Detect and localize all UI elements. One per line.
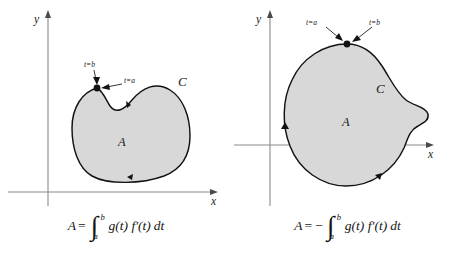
panel-left: t=b t=a C A y x A= b ∫ a g(t) f′(t)dt (0, 0, 232, 253)
left-formula-differential: dt (154, 218, 165, 233)
left-integral-upper-limit: b (101, 212, 105, 222)
right-diagram: t=a t=b C A y x (232, 0, 463, 210)
panel-right: t=a t=b C A y x A=− b ∫ a g(t) f′(t)dt (232, 0, 463, 253)
left-x-axis (8, 189, 218, 195)
left-label-axis-y: y (33, 13, 40, 26)
left-label-curve-c: C (178, 74, 187, 89)
figure-container: t=b t=a C A y x A= b ∫ a g(t) f′(t)dt (0, 0, 463, 253)
right-integral-upper-limit: b (337, 212, 341, 222)
left-closed-curve (72, 86, 190, 182)
left-integral-lower-limit: a (94, 231, 98, 241)
left-label-t-b: t=b (84, 60, 95, 69)
right-formula: A=− b ∫ a g(t) f′(t)dt (232, 214, 463, 240)
right-formula-differential: dt (390, 218, 401, 233)
left-label-axis-x: x (210, 195, 217, 207)
right-formula-lhs: A (294, 218, 302, 233)
right-formula-integrand: g(t) f′(t) (345, 218, 387, 233)
right-leader-tb (352, 27, 372, 42)
right-label-region-a: A (341, 115, 350, 129)
left-label-t-a: t=a (124, 76, 135, 85)
right-integral-lower-limit: a (330, 231, 334, 241)
right-label-t-a: t=a (306, 18, 317, 27)
right-formula-equals: = (303, 218, 315, 233)
left-label-region-a: A (117, 135, 126, 149)
left-integral-sign: b ∫ a (91, 214, 106, 240)
left-leader-ta (101, 84, 122, 90)
right-label-axis-y: y (255, 13, 262, 26)
right-leader-ta (326, 27, 343, 41)
left-diagram: t=b t=a C A y x (0, 0, 232, 210)
left-endpoint-dot (94, 85, 101, 92)
right-label-curve-c: C (376, 81, 385, 96)
left-y-axis (45, 10, 51, 206)
left-formula-lhs: A (68, 218, 76, 233)
right-label-axis-x: x (427, 148, 434, 160)
right-formula-sign: − (314, 218, 324, 233)
right-endpoint-dot (344, 41, 351, 48)
left-formula: A= b ∫ a g(t) f′(t)dt (0, 214, 232, 240)
left-formula-equals: = (76, 218, 88, 233)
right-label-t-b: t=b (369, 18, 380, 27)
left-formula-integrand: g(t) f′(t) (109, 218, 151, 233)
right-integral-sign: b ∫ a (327, 214, 342, 240)
left-leader-tb (93, 70, 100, 85)
right-closed-curve (284, 44, 428, 186)
right-y-axis (267, 10, 273, 206)
